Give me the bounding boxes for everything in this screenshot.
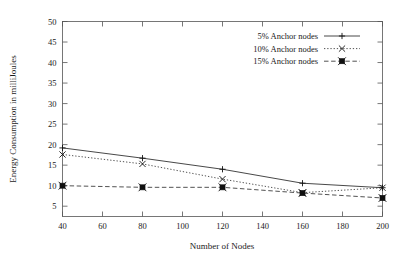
y-tick-label: 20 [48,140,57,150]
y-tick-label: 10 [48,181,57,191]
chart-legend: 5% Anchor nodes10% Anchor nodes15% Ancho… [253,31,360,66]
x-tick-label: 80 [138,221,147,231]
x-tick-label: 180 [336,221,349,231]
y-tick-label: 25 [48,119,57,129]
y-axis-title: Energy Consumption in milliJoules [8,55,18,183]
x-tick-label: 200 [376,221,389,231]
legend-label: 5% Anchor nodes [258,31,318,41]
x-tick-label: 40 [58,221,67,231]
x-tick-label: 140 [256,221,269,231]
y-tick-label: 35 [48,78,57,88]
legend-label: 10% Anchor nodes [253,44,318,54]
y-tick-label: 5 [52,201,56,211]
x-axis-title: Number of Nodes [190,241,255,251]
x-tick-label: 160 [296,221,309,231]
y-tick-label: 30 [48,99,57,109]
y-tick-label: 15 [48,160,57,170]
chart-figure: 5101520253035404550 40608010012014016018… [0,0,412,254]
chart-background [0,0,412,254]
y-tick-label: 45 [48,37,57,47]
y-tick-label: 40 [48,58,57,68]
y-tick-label: 50 [48,17,57,27]
x-tick-label: 100 [176,221,189,231]
x-tick-label: 60 [98,221,107,231]
line-chart: 5101520253035404550 40608010012014016018… [0,0,412,254]
x-tick-label: 120 [216,221,229,231]
legend-label: 15% Anchor nodes [253,56,318,66]
